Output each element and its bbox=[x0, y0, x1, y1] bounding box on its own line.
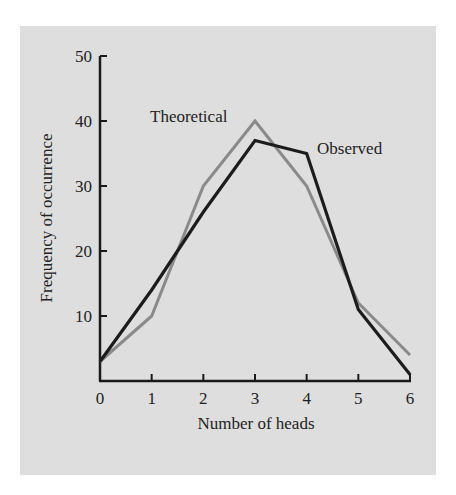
line-chart: 10203040500123456 Theoretical Observed N… bbox=[0, 0, 456, 495]
x-tick-label: 3 bbox=[251, 389, 260, 408]
series-line-observed bbox=[100, 141, 410, 375]
axes: 10203040500123456 bbox=[75, 47, 414, 408]
x-axis-label: Number of heads bbox=[197, 414, 314, 433]
y-tick-label: 50 bbox=[75, 47, 92, 66]
y-tick-label: 40 bbox=[75, 112, 92, 131]
x-tick-label: 5 bbox=[354, 389, 363, 408]
y-tick-label: 10 bbox=[75, 307, 92, 326]
y-tick-label: 30 bbox=[75, 177, 92, 196]
x-tick-label: 2 bbox=[199, 389, 208, 408]
x-tick-label: 1 bbox=[147, 389, 156, 408]
y-axis-label: Frequency of occurrence bbox=[37, 134, 56, 303]
series-lines bbox=[100, 121, 410, 375]
y-tick-label: 20 bbox=[75, 242, 92, 261]
x-tick-label: 4 bbox=[302, 389, 311, 408]
x-tick-label: 0 bbox=[96, 389, 105, 408]
annotation-observed: Observed bbox=[317, 139, 383, 158]
labels: Theoretical Observed Number of heads Fre… bbox=[37, 107, 383, 433]
x-tick-label: 6 bbox=[406, 389, 415, 408]
annotation-theoretical: Theoretical bbox=[150, 107, 228, 126]
